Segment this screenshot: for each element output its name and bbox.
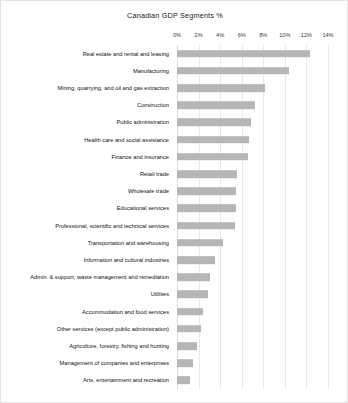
category-label: Arts, entertainment and recreation (83, 377, 173, 384)
category-label: Retail trade (140, 170, 173, 177)
category-label: Management of companies and enterprises (60, 360, 173, 367)
x-tick-label: 8% (259, 32, 267, 38)
bar-row: Information and cultural industries (1, 251, 348, 268)
bar-row: Utilities (1, 286, 348, 303)
bar (177, 222, 235, 230)
bar-row: Arts, entertainment and recreation (1, 372, 348, 389)
bar (177, 170, 237, 178)
bar-row: Finance and insurance (1, 148, 348, 165)
category-label: Agriculture, forestry, fishing and hunti… (69, 342, 173, 349)
category-label: Utilities (151, 291, 173, 298)
x-tick-label: 12% (301, 32, 312, 38)
x-tick-label: 6% (238, 32, 246, 38)
page-title: Canadian GDP Segments % (1, 11, 348, 20)
category-label: Manufacturing (133, 67, 173, 74)
bar (177, 187, 236, 195)
category-label: Other services (except public administra… (57, 325, 173, 332)
bar-row: Admin. & support, waste management and r… (1, 269, 348, 286)
category-label: Professional, scientific and technical s… (55, 222, 173, 229)
bar-row: Other services (except public administra… (1, 320, 348, 337)
chart-figure: Canadian GDP Segments % 0%2%4%6%8%10%12%… (0, 0, 348, 403)
category-label: Public administration (117, 119, 173, 126)
bar-row: Public administration (1, 114, 348, 131)
bar-row: Health care and social assistance (1, 131, 348, 148)
bar-row: Agriculture, forestry, fishing and hunti… (1, 337, 348, 354)
bar (177, 342, 197, 350)
bar-rows: Real estate and rental and leasingManufa… (1, 45, 348, 389)
bar (177, 50, 310, 58)
bar (177, 205, 236, 213)
x-tick-label: 2% (195, 32, 203, 38)
bar (177, 239, 223, 247)
x-tick-label: 14% (322, 32, 333, 38)
bar-row: Transportation and warehousing (1, 234, 348, 251)
x-axis-tick-labels: 0%2%4%6%8%10%12%14% (177, 32, 328, 42)
bar (177, 359, 193, 367)
category-label: Educational services (117, 205, 173, 212)
category-label: Mining, quarrying, and oil and gas extra… (57, 84, 173, 91)
bar (177, 119, 251, 127)
bar (177, 136, 249, 144)
x-tick-label: 0% (173, 32, 181, 38)
category-label: Transportation and warehousing (88, 239, 173, 246)
category-label: Construction (137, 102, 173, 109)
category-label: Wholesale trade (128, 188, 173, 195)
bar-row: Educational services (1, 200, 348, 217)
x-tick-label: 10% (279, 32, 290, 38)
bar (177, 153, 248, 161)
bar-row: Real estate and rental and leasing (1, 45, 348, 62)
bar (177, 308, 203, 316)
bar-row: Mining, quarrying, and oil and gas extra… (1, 79, 348, 96)
bar-row: Retail trade (1, 165, 348, 182)
category-label: Real estate and rental and leasing (83, 50, 173, 57)
bar (177, 291, 208, 299)
bar-row: Management of companies and enterprises (1, 355, 348, 372)
category-label: Information and cultural industries (84, 256, 173, 263)
bar (177, 377, 190, 385)
bar-row: Professional, scientific and technical s… (1, 217, 348, 234)
bar (177, 273, 210, 281)
bar-row: Manufacturing (1, 62, 348, 79)
bar-row: Construction (1, 97, 348, 114)
bar (177, 101, 255, 109)
category-label: Finance and insurance (111, 153, 173, 160)
bar (177, 256, 215, 264)
x-tick-label: 4% (216, 32, 224, 38)
category-label: Accommodation and food services (82, 308, 173, 315)
bar (177, 325, 201, 333)
bar (177, 67, 289, 75)
category-label: Admin. & support, waste management and r… (30, 274, 173, 281)
bar-row: Accommodation and food services (1, 303, 348, 320)
category-label: Health care and social assistance (84, 136, 173, 143)
bar (177, 84, 265, 92)
bar-row: Wholesale trade (1, 183, 348, 200)
